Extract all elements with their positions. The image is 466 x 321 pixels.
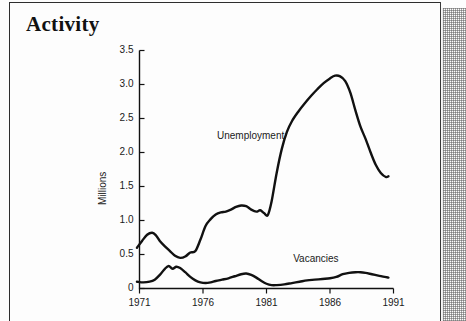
series-line-unemployment bbox=[137, 75, 388, 257]
y-tick-label: 0.5 bbox=[102, 248, 134, 259]
x-tick-label: 1991 bbox=[369, 297, 419, 308]
y-tick-label: 2.0 bbox=[102, 146, 134, 157]
y-tick-label: 0 bbox=[102, 282, 134, 293]
activity-line-chart: Millions 00.51.01.52.02.53.03.5197119761… bbox=[0, 0, 466, 321]
chart-axes bbox=[140, 51, 394, 289]
series-annotation-unemployment: Unemployment bbox=[217, 130, 284, 141]
y-tick-label: 3.5 bbox=[102, 44, 134, 55]
chart-svg bbox=[0, 0, 466, 321]
x-tick-label: 1986 bbox=[305, 297, 355, 308]
y-tick-label: 3.0 bbox=[102, 78, 134, 89]
series-annotation-vacancies: Vacancies bbox=[293, 253, 338, 264]
series-line-vacancies bbox=[137, 266, 388, 285]
y-tick-label: 1.5 bbox=[102, 180, 134, 191]
x-tick-label: 1971 bbox=[115, 297, 165, 308]
x-tick-label: 1981 bbox=[242, 297, 292, 308]
y-tick-label: 2.5 bbox=[102, 112, 134, 123]
x-tick-label: 1976 bbox=[178, 297, 228, 308]
scanned-page: Activity Millions 00.51.01.52.02.53.03.5… bbox=[0, 0, 466, 321]
y-tick-label: 1.0 bbox=[102, 214, 134, 225]
